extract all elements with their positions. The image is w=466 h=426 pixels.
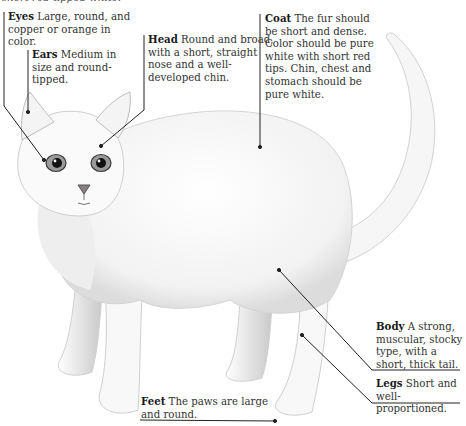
- cat-front-leg-far: [58, 290, 102, 375]
- callout-coat: Coat The fur should be short and dense. …: [265, 12, 385, 101]
- callout-head: Head Round and broad, with a short, stra…: [148, 33, 274, 84]
- callout-eyes: Eyes Large, round, and copper or orange …: [8, 10, 136, 49]
- callout-legs: Legs Short and well-proportioned.: [376, 377, 466, 416]
- cat-front-leg-near: [99, 290, 142, 413]
- callout-ears: Ears Medium in size and round-tipped.: [32, 48, 120, 87]
- callout-feet: Feet The paws are large and round.: [141, 395, 271, 421]
- cat-anatomy-diagram: short red-tipped white.: [0, 0, 466, 426]
- cat-back-leg-near: [276, 300, 328, 415]
- callout-body: Body A strong, muscular, stocky type, wi…: [376, 320, 466, 371]
